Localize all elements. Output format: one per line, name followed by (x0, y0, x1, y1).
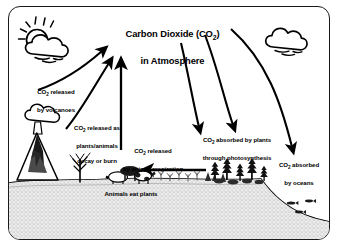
label-photosynthesis-line-2: through photosynthesis (203, 154, 272, 161)
title-line-2: in Atmosphere (141, 55, 205, 66)
label-photosynthesis-line-1: CO2 absorbed by plants (203, 136, 271, 143)
label-volcanoes: CO2 released by volcanoes (15, 80, 97, 114)
cloud-icon (266, 28, 307, 49)
label-volcanoes-line-2: by volcanoes (37, 106, 75, 113)
title-line-1: Carbon Dioxide (CO2) (126, 28, 220, 39)
label-respiration-line-1: CO2 released (134, 147, 172, 154)
cloud-underline-icon (35, 58, 63, 63)
label-oceans-line-2: by oceans (284, 179, 313, 186)
ground-fill (9, 178, 330, 240)
page-title: Carbon Dioxide (CO2) in Atmosphere (95, 17, 250, 67)
carbon-cycle-diagram: Carbon Dioxide (CO2) in Atmosphere CO2 r… (0, 0, 338, 251)
label-oceans-line-1: CO2 absorbed (279, 161, 319, 168)
cloud-underline-icon (275, 51, 302, 56)
diagram-frame: Carbon Dioxide (CO2) in Atmosphere CO2 r… (8, 6, 330, 240)
label-volcanoes-line-1: CO2 released (37, 88, 75, 95)
label-decay-line-1: CO2 released as (74, 124, 120, 131)
label-respiration-line-2: by animal respiration (123, 165, 183, 172)
label-animals-eat-plants: Animals eat plants (85, 190, 177, 198)
label-oceans: CO2 absorbed by oceans (265, 153, 330, 187)
diagram-scene: Carbon Dioxide (CO2) in Atmosphere CO2 r… (9, 7, 329, 239)
